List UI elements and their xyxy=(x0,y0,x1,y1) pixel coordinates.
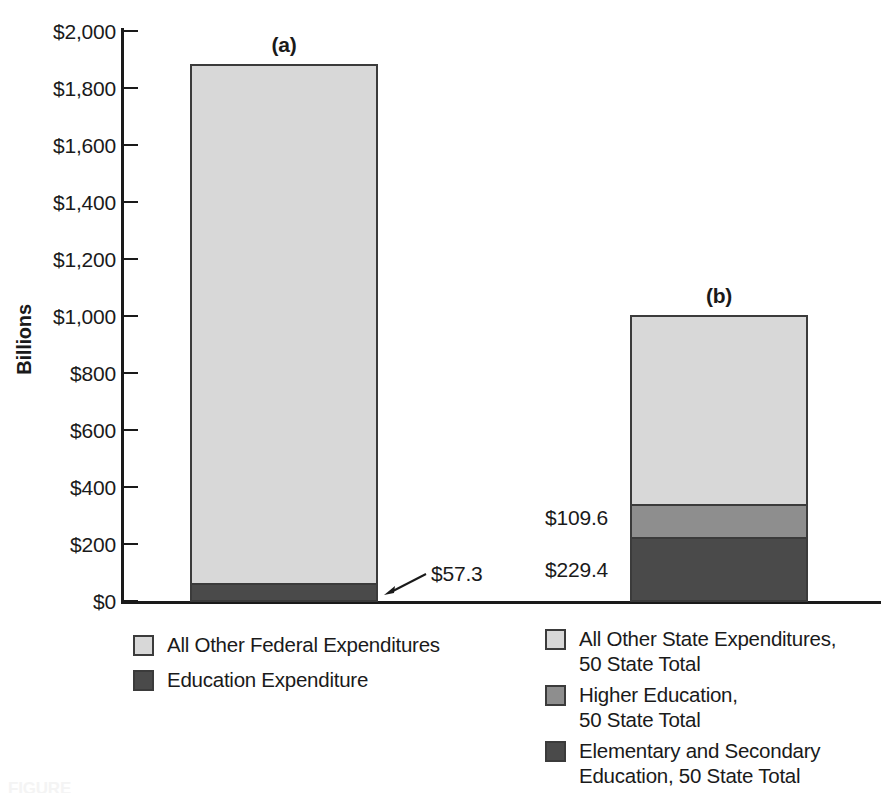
y-tick-1400: $1,400 xyxy=(0,192,116,213)
y-tick-mark xyxy=(124,258,138,260)
legend-swatch-light-icon xyxy=(545,629,566,650)
y-tick-mark xyxy=(124,600,138,602)
bar-b-elementary-secondary-segment[interactable] xyxy=(630,537,808,602)
bar-b[interactable] xyxy=(630,315,808,602)
y-tick-mark xyxy=(124,486,138,488)
legend-swatch-dark-icon xyxy=(545,741,566,762)
callout-a-arrow xyxy=(382,573,428,595)
legend-state: All Other State Expenditures, 50 State T… xyxy=(545,626,891,793)
bar-a-caption: (a) xyxy=(190,33,378,57)
y-tick-800: $800 xyxy=(0,363,116,384)
legend-item[interactable]: Higher Education, 50 State Total xyxy=(545,682,891,732)
bar-b-all-other-state-segment[interactable] xyxy=(630,315,808,506)
y-tick-400: $400 xyxy=(0,477,116,498)
y-tick-label: $800 xyxy=(8,363,116,384)
legend-swatch-dark-icon xyxy=(133,670,154,691)
legend-item-label: All Other State Expenditures, 50 State T… xyxy=(579,626,836,676)
y-tick-mark xyxy=(124,315,138,317)
y-tick-mark xyxy=(124,30,138,32)
legend-item-label: Higher Education, 50 State Total xyxy=(579,682,738,732)
bar-b-higher-education-segment[interactable] xyxy=(630,504,808,539)
y-tick-label: $0 xyxy=(8,591,116,612)
y-tick-mark xyxy=(124,372,138,374)
y-tick-600: $600 xyxy=(0,420,116,441)
legend-item[interactable]: Education Expenditure xyxy=(133,667,493,692)
y-tick-label: $1,600 xyxy=(8,135,116,156)
legend-item[interactable]: Elementary and Secondary Education, 50 S… xyxy=(545,738,891,788)
y-tick-label: $1,200 xyxy=(8,249,116,270)
y-tick-label: $1,000 xyxy=(8,306,116,327)
legend-item-label: Education Expenditure xyxy=(167,667,368,692)
bar-b-elementary-secondary-label: $229.4 xyxy=(545,558,608,582)
bar-a-all-other-federal-segment[interactable] xyxy=(190,64,378,585)
legend-swatch-light-icon xyxy=(133,635,154,656)
bar-a-value-label: $57.3 xyxy=(431,562,483,586)
bar-b-higher-education-label: $109.6 xyxy=(545,506,608,530)
legend-item[interactable]: All Other State Expenditures, 50 State T… xyxy=(545,626,891,676)
figure-caption: FIGURE xyxy=(8,779,71,793)
y-tick-200: $200 xyxy=(0,534,116,555)
y-tick-1000: $1,000 xyxy=(0,306,116,327)
legend-item-label: Elementary and Secondary Education, 50 S… xyxy=(579,738,820,788)
y-tick-mark xyxy=(124,144,138,146)
y-tick-mark xyxy=(124,429,138,431)
y-tick-label: $1,400 xyxy=(8,192,116,213)
bar-a-education-segment[interactable] xyxy=(190,583,378,602)
y-tick-0: $0 xyxy=(0,591,116,612)
y-tick-label: $600 xyxy=(8,420,116,441)
y-tick-mark xyxy=(124,87,138,89)
y-tick-1200: $1,200 xyxy=(0,249,116,270)
chart-plot-area: Billions $2,000 $1,800 $1,600 $1,400 $1,… xyxy=(0,0,891,620)
legend-item-label: All Other Federal Expenditures xyxy=(167,632,440,657)
y-tick-mark xyxy=(124,543,138,545)
y-tick-1800: $1,800 xyxy=(0,78,116,99)
bar-a[interactable] xyxy=(190,64,378,602)
y-tick-1600: $1,600 xyxy=(0,135,116,156)
legend-item[interactable]: All Other Federal Expenditures xyxy=(133,632,493,657)
y-tick-label: $400 xyxy=(8,477,116,498)
y-tick-2000: $2,000 xyxy=(0,21,116,42)
figure-root: Billions $2,000 $1,800 $1,600 $1,400 $1,… xyxy=(0,0,891,793)
y-tick-label: $1,800 xyxy=(8,78,116,99)
y-tick-label: $2,000 xyxy=(8,21,116,42)
bar-b-caption: (b) xyxy=(630,284,808,308)
legend-swatch-medium-icon xyxy=(545,685,566,706)
y-tick-mark xyxy=(124,201,138,203)
legend-federal: All Other Federal Expenditures Education… xyxy=(133,632,493,702)
y-tick-label: $200 xyxy=(8,534,116,555)
